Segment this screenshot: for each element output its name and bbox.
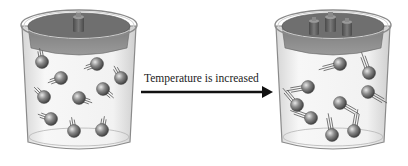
arrow-icon — [141, 86, 273, 98]
arrow-label: Temperature is increased — [144, 72, 259, 84]
